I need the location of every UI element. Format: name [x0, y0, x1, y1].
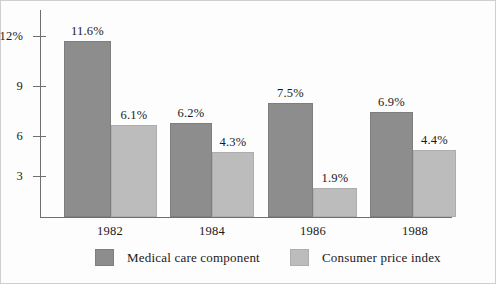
bar-1984-cpi[interactable]: 4.3%	[212, 152, 254, 217]
legend-swatch-medical-icon	[95, 249, 114, 266]
legend-item-medical-care-component[interactable]: Medical care component	[95, 249, 260, 266]
y-tick-label-3: 3	[17, 169, 23, 184]
bar-value-1982-cpi: 6.1%	[121, 108, 148, 123]
bar-value-1986-medical: 7.5%	[277, 86, 304, 101]
bar-1986-cpi[interactable]: 1.9%	[313, 188, 357, 217]
bar-value-1984-medical: 6.2%	[178, 106, 205, 121]
y-tick-label-6: 6	[17, 129, 23, 144]
legend-label-medical: Medical care component	[127, 250, 260, 266]
bar-1982-medical[interactable]: 11.6%	[64, 41, 111, 217]
legend-item-consumer-price-index[interactable]: Consumer price index	[290, 249, 441, 266]
y-tick-9: 9	[33, 86, 46, 87]
bar-value-1988-medical: 6.9%	[378, 95, 405, 110]
y-tick-label-9: 9	[17, 79, 23, 94]
bar-1986-medical[interactable]: 7.5%	[268, 103, 313, 217]
plot-area: 12% 9 6 3 11.6% 6.1% 1982 6.2% 4.3% 1984…	[40, 10, 452, 218]
x-label-1986: 1986	[300, 224, 326, 239]
bar-value-1982-medical: 11.6%	[71, 24, 104, 39]
bar-chart-figure: 12% 9 6 3 11.6% 6.1% 1982 6.2% 4.3% 1984…	[0, 0, 496, 284]
bar-1984-medical[interactable]: 6.2%	[170, 123, 212, 217]
y-axis-line	[40, 10, 41, 218]
x-label-1982: 1982	[97, 224, 123, 239]
bar-value-1988-cpi: 4.4%	[421, 133, 448, 148]
bar-value-1984-cpi: 4.3%	[220, 135, 247, 150]
y-tick-label-12: 12%	[0, 29, 23, 44]
y-tick-12: 12%	[33, 36, 46, 37]
legend-label-cpi: Consumer price index	[322, 250, 441, 266]
chart-legend: Medical care component Consumer price in…	[0, 249, 496, 275]
legend-swatch-cpi-icon	[290, 249, 309, 266]
bar-1988-cpi[interactable]: 4.4%	[413, 150, 456, 217]
x-axis-line	[40, 217, 452, 218]
bar-value-1986-cpi: 1.9%	[322, 171, 349, 186]
y-tick-3: 3	[33, 176, 46, 177]
x-label-1988: 1988	[402, 224, 428, 239]
bar-1988-medical[interactable]: 6.9%	[370, 112, 413, 217]
figure-border-top	[0, 0, 496, 1]
x-label-1984: 1984	[199, 224, 225, 239]
bar-1982-cpi[interactable]: 6.1%	[111, 125, 157, 217]
y-tick-6: 6	[33, 136, 46, 137]
